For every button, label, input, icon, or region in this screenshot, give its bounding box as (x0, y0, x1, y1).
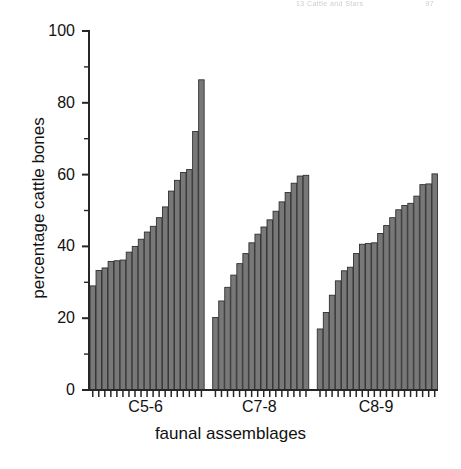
x-axis-title: faunal assemblages (0, 424, 461, 444)
bar-c89-16 (414, 196, 419, 390)
bar-c56-15 (181, 172, 186, 390)
bar-c56-1 (96, 270, 101, 390)
bar-c89-8 (366, 244, 371, 390)
bar-c56-5 (120, 260, 125, 390)
ytick-label-0: 0 (29, 382, 75, 398)
bar-c89-0 (317, 329, 322, 390)
bar-c56-4 (114, 261, 119, 390)
bar-c56-13 (168, 191, 173, 390)
bar-c89-19 (432, 174, 437, 390)
ytick-label-100: 100 (29, 23, 75, 39)
bar-c89-12 (390, 218, 395, 390)
bar-c56-10 (150, 226, 155, 390)
bar-c89-9 (372, 243, 377, 390)
bar-c56-14 (175, 180, 180, 390)
bar-c56-7 (132, 246, 137, 390)
bar-c78-8 (261, 227, 266, 390)
bar-c89-14 (402, 205, 407, 390)
bar-c89-1 (323, 312, 328, 390)
bar-c89-5 (347, 267, 352, 390)
bar-c56-16 (187, 170, 192, 390)
bar-c78-5 (243, 254, 248, 390)
bar-c78-6 (249, 243, 254, 390)
bar-c56-17 (193, 132, 198, 390)
bar-c89-10 (378, 233, 383, 390)
bar-c78-2 (225, 287, 230, 390)
bar-c56-3 (108, 261, 113, 390)
bar-c56-11 (156, 218, 161, 390)
bar-c89-4 (341, 271, 346, 390)
bar-c78-13 (291, 183, 296, 390)
bar-c78-0 (213, 317, 218, 390)
bar-c89-17 (420, 185, 425, 390)
bar-c56-12 (162, 207, 167, 390)
bar-c78-10 (273, 211, 278, 390)
bar-c89-15 (408, 203, 413, 390)
bar-c89-6 (353, 254, 358, 390)
bar-c56-0 (90, 286, 95, 390)
bar-c89-18 (426, 184, 431, 390)
bar-c56-2 (102, 268, 107, 390)
bar-c56-6 (126, 252, 131, 390)
bar-c78-12 (285, 193, 290, 390)
bar-c89-2 (329, 295, 334, 390)
bar-c89-3 (335, 281, 340, 390)
bar-c56-9 (144, 232, 149, 390)
bar-c78-9 (267, 220, 272, 390)
bars-layer (90, 80, 437, 390)
bar-c78-1 (219, 301, 224, 390)
bar-c78-7 (255, 234, 260, 390)
bar-c56-8 (138, 239, 143, 390)
bar-c78-3 (231, 275, 236, 390)
bar-c89-11 (384, 226, 389, 390)
bar-c56-18 (199, 80, 204, 390)
y-axis-title: percentage cattle bones (29, 83, 49, 333)
x-group-label-c7-8: C7-8 (199, 398, 319, 416)
bar-c78-14 (297, 176, 302, 390)
bar-c89-7 (360, 244, 365, 390)
bar-c78-4 (237, 264, 242, 390)
x-group-label-c5-6: C5-6 (86, 398, 206, 416)
bar-c78-11 (279, 202, 284, 390)
bar-c89-13 (396, 210, 401, 390)
bar-c78-15 (303, 175, 308, 390)
bar-chart-figure: 0 20 40 60 80 100 C5-6 C7-8 C8-9 faunal … (0, 0, 461, 469)
x-group-label-c8-9: C8-9 (316, 398, 436, 416)
